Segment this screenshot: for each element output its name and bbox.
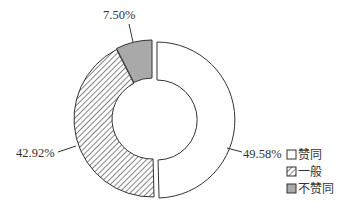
legend-label-agree: 赞同 bbox=[298, 148, 322, 162]
label-agree: 49.58% bbox=[243, 147, 282, 161]
leader-disagree bbox=[129, 24, 133, 42]
legend-swatch-neutral bbox=[287, 167, 296, 176]
leader-neutral bbox=[58, 146, 76, 152]
donut-chart: 7.50% 42.92% 49.58% 赞同 一般 不赞同 bbox=[0, 0, 347, 213]
legend-label-neutral: 一般 bbox=[298, 164, 322, 179]
label-disagree: 7.50% bbox=[103, 8, 135, 22]
label-neutral: 42.92% bbox=[16, 146, 55, 160]
legend: 赞同 一般 不赞同 bbox=[287, 148, 334, 196]
legend-label-disagree: 不赞同 bbox=[298, 182, 334, 196]
legend-swatch-agree bbox=[287, 150, 296, 159]
legend-swatch-disagree bbox=[287, 184, 296, 193]
slice-agree bbox=[157, 42, 235, 198]
